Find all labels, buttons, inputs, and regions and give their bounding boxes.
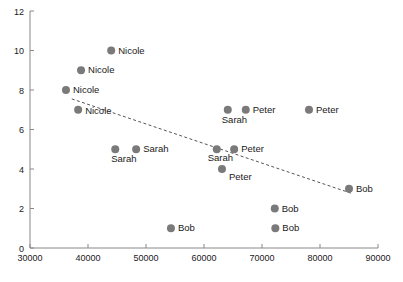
y-axis-ticks: 024681012 <box>14 7 34 254</box>
point-marker[interactable] <box>242 106 250 114</box>
chart-canvas: 30000400005000060000700008000090000 0246… <box>0 0 403 282</box>
point-label: Peter <box>316 104 339 115</box>
point-label: Nicole <box>88 64 114 75</box>
point-marker[interactable] <box>62 86 70 94</box>
data-point[interactable]: Peter <box>230 143 264 154</box>
point-label: Nicole <box>118 45 144 56</box>
data-point[interactable]: Nicole <box>62 84 99 95</box>
point-marker[interactable] <box>305 106 313 114</box>
point-label: Nicole <box>73 84 99 95</box>
point-marker[interactable] <box>111 145 119 153</box>
scatter-plot: 30000400005000060000700008000090000 0246… <box>0 0 403 282</box>
point-label: Sarah <box>111 153 136 164</box>
data-point[interactable]: Bob <box>345 183 373 194</box>
x-tick-label: 50000 <box>133 253 158 263</box>
point-marker[interactable] <box>77 66 85 74</box>
data-point[interactable]: Peter <box>218 165 252 182</box>
point-marker[interactable] <box>107 47 115 55</box>
y-tick-label: 0 <box>19 244 24 254</box>
data-point[interactable]: Peter <box>242 104 276 115</box>
point-label: Sarah <box>143 143 168 154</box>
y-tick-label: 6 <box>19 125 24 135</box>
point-marker[interactable] <box>224 106 232 114</box>
point-label: Bob <box>178 222 195 233</box>
point-marker[interactable] <box>345 185 353 193</box>
point-marker[interactable] <box>230 145 238 153</box>
point-label: Bob <box>282 222 299 233</box>
point-label: Peter <box>241 143 264 154</box>
x-tick-label: 80000 <box>307 253 332 263</box>
point-label: Sarah <box>208 152 233 163</box>
y-tick-label: 10 <box>14 46 24 56</box>
data-point[interactable]: Nicole <box>107 45 144 56</box>
x-tick-label: 30000 <box>17 253 42 263</box>
data-point[interactable]: Bob <box>271 203 299 214</box>
data-points: NicoleNicoleNicoleNicoleSarahSarahBobSar… <box>62 45 373 234</box>
point-label: Bob <box>356 183 373 194</box>
point-marker[interactable] <box>271 205 279 213</box>
data-point[interactable]: Nicole <box>77 64 114 75</box>
x-tick-label: 40000 <box>75 253 100 263</box>
data-point[interactable]: Sarah <box>208 145 233 163</box>
point-label: Peter <box>253 104 276 115</box>
point-marker[interactable] <box>74 106 82 114</box>
y-tick-label: 2 <box>19 204 24 214</box>
x-axis-ticks: 30000400005000060000700008000090000 <box>17 244 390 263</box>
point-marker[interactable] <box>132 145 140 153</box>
point-label: Nicole <box>85 105 111 116</box>
point-marker[interactable] <box>218 165 226 173</box>
data-point[interactable]: Sarah <box>132 143 168 154</box>
point-label: Bob <box>282 203 299 214</box>
data-point[interactable]: Peter <box>305 104 339 115</box>
axis-lines <box>30 11 378 248</box>
axes <box>30 11 378 248</box>
x-tick-label: 90000 <box>365 253 390 263</box>
point-label: Peter <box>229 171 252 182</box>
y-tick-label: 8 <box>19 86 24 96</box>
y-tick-label: 4 <box>19 165 24 175</box>
data-point[interactable]: Bob <box>167 222 195 233</box>
data-point[interactable]: Nicole <box>74 105 111 116</box>
point-marker[interactable] <box>167 224 175 232</box>
data-point[interactable]: Bob <box>271 222 299 233</box>
x-tick-label: 70000 <box>249 253 274 263</box>
x-tick-label: 60000 <box>191 253 216 263</box>
point-marker[interactable] <box>271 224 279 232</box>
point-label: Sarah <box>222 114 247 125</box>
y-tick-label: 12 <box>14 7 24 17</box>
